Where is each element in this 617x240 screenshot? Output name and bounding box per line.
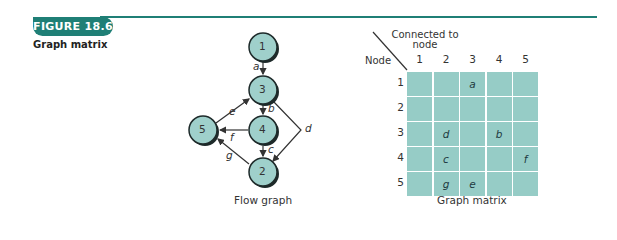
matrix-cell xyxy=(460,147,485,171)
matrix-cell xyxy=(487,72,512,96)
matrix-cell xyxy=(434,97,459,121)
matrix-header-top2: node xyxy=(390,40,460,50)
matrix-cell xyxy=(407,172,432,196)
matrix-row-3: 3 xyxy=(392,126,404,138)
edge-label-c: c xyxy=(268,143,274,155)
matrix-row-4: 4 xyxy=(392,151,404,163)
matrix-row-5: 5 xyxy=(392,176,404,188)
matrix-cell xyxy=(407,147,432,171)
matrix-cell: f xyxy=(513,147,538,171)
matrix-cell xyxy=(513,122,538,146)
matrix-row-1: 1 xyxy=(392,76,404,88)
matrix-cell xyxy=(460,122,485,146)
node-4-label: 4 xyxy=(259,123,266,135)
graph-matrix: a d b c f g e xyxy=(407,72,538,196)
matrix-col-1: 1 xyxy=(407,53,432,65)
node-2-label: 2 xyxy=(259,165,266,177)
edge-label-b: b xyxy=(268,102,275,114)
matrix-cell: c xyxy=(434,147,459,171)
matrix-row-2: 2 xyxy=(392,101,404,113)
matrix-cell: g xyxy=(434,172,459,196)
matrix-cell: a xyxy=(460,72,485,96)
edge-label-f: f xyxy=(230,131,234,143)
matrix-cell xyxy=(407,72,432,96)
matrix-cell xyxy=(487,172,512,196)
matrix-cell: e xyxy=(460,172,485,196)
flow-graph-caption: Flow graph xyxy=(234,194,292,206)
graph-matrix-caption: Graph matrix xyxy=(437,194,507,206)
node-3-label: 3 xyxy=(259,83,266,95)
matrix-cell xyxy=(513,97,538,121)
matrix-col-3: 3 xyxy=(460,53,485,65)
edge-label-e: e xyxy=(229,105,235,117)
edge-label-a: a xyxy=(253,60,259,72)
matrix-cell xyxy=(513,172,538,196)
matrix-cell xyxy=(487,97,512,121)
node-5-label: 5 xyxy=(199,123,206,135)
matrix-col-2: 2 xyxy=(434,53,459,65)
matrix-cell xyxy=(407,97,432,121)
matrix-col-5: 5 xyxy=(513,53,538,65)
matrix-cell xyxy=(460,97,485,121)
matrix-col-4: 4 xyxy=(487,53,512,65)
matrix-header-left: Node xyxy=(363,56,393,66)
matrix-cell xyxy=(513,72,538,96)
matrix-cell: b xyxy=(487,122,512,146)
node-1-label: 1 xyxy=(259,40,266,52)
matrix-cell xyxy=(407,122,432,146)
matrix-cell: d xyxy=(434,122,459,146)
edge-label-d: d xyxy=(305,122,312,134)
matrix-cell xyxy=(434,72,459,96)
edge-label-g: g xyxy=(226,149,233,161)
matrix-cell xyxy=(487,147,512,171)
